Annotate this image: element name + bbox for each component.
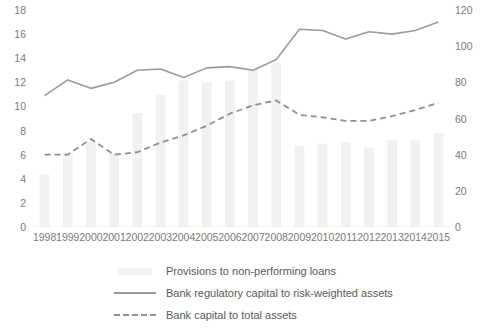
legend-item-regulatory-capital: Bank regulatory capital to risk-weighted… — [112, 282, 442, 304]
bar — [63, 153, 73, 227]
x-axis-tick: 2015 — [422, 232, 454, 243]
left-axis-tick: 12 — [0, 77, 26, 87]
left-axis-tick: 0 — [0, 222, 26, 232]
right-axis-tick: 20 — [455, 186, 485, 196]
right-axis-tick: 0 — [455, 222, 485, 232]
left-axis-tick: 4 — [0, 174, 26, 184]
right-axis-tick: 60 — [455, 114, 485, 124]
left-axis-tick: 18 — [0, 5, 26, 15]
bar — [40, 175, 50, 227]
dashed-line-swatch-icon — [112, 309, 156, 321]
bar — [202, 82, 212, 227]
bar — [271, 62, 281, 227]
left-axis-tick: 6 — [0, 150, 26, 160]
legend-label-bank-capital: Bank capital to total assets — [166, 309, 297, 321]
right-axis-tick: 100 — [455, 41, 485, 51]
legend-item-bank-capital: Bank capital to total assets — [112, 304, 442, 326]
bar — [387, 140, 397, 227]
chart-graphics — [33, 10, 450, 227]
bar — [248, 70, 258, 227]
right-axis-tick: 80 — [455, 77, 485, 87]
bar — [364, 147, 374, 227]
bar — [295, 146, 305, 227]
chart-legend: Provisions to non-performing loans Bank … — [112, 260, 442, 326]
left-axis-tick: 10 — [0, 101, 26, 111]
left-axis-tick: 16 — [0, 29, 26, 39]
solid-line-swatch-icon — [112, 287, 156, 299]
legend-label-provisions: Provisions to non-performing loans — [166, 265, 336, 277]
bar — [410, 140, 420, 227]
bar — [341, 142, 351, 227]
line-series-bank-capital — [45, 100, 439, 154]
line-series-regulatory-capital — [45, 22, 439, 96]
right-axis-tick: 40 — [455, 150, 485, 160]
legend-item-provisions: Provisions to non-performing loans — [112, 260, 442, 282]
right-axis-tick: 120 — [455, 5, 485, 15]
bar — [109, 153, 119, 227]
bar-swatch-icon — [112, 265, 156, 277]
bar — [156, 95, 166, 227]
bar — [318, 144, 328, 227]
legend-label-regulatory-capital: Bank regulatory capital to risk-weighted… — [166, 287, 393, 299]
left-axis-tick: 8 — [0, 126, 26, 136]
bar — [225, 81, 235, 227]
bar — [179, 81, 189, 227]
left-axis-tick: 2 — [0, 198, 26, 208]
bar — [86, 142, 96, 227]
chart-container: 024681012141618 020406080100120 19981999… — [0, 0, 494, 328]
plot-area — [33, 10, 450, 227]
bar — [132, 113, 142, 227]
left-axis-tick: 14 — [0, 53, 26, 63]
bar — [434, 133, 444, 227]
